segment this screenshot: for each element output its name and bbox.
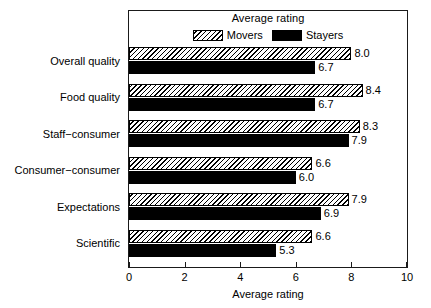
bar-value-label: 8.3 [363,120,378,133]
bar-value-label: 7.9 [352,134,367,147]
bar-chart: Average rating Movers Stayers Overall qu… [0,0,431,308]
bar-movers-4 [129,193,349,206]
bar-value-label: 6.6 [315,157,330,170]
category-axis-labels: Overall quality Food quality Staff−consu… [0,10,124,268]
x-axis-tick-label: 6 [293,271,299,283]
category-label: Overall quality [50,55,120,67]
category-label: Food quality [60,91,120,103]
bar-movers-0 [129,47,351,60]
bars-layer: 8.06.78.46.78.37.96.66.07.96.96.65.3 [129,11,407,267]
bar-movers-1 [129,84,363,97]
bar-value-label: 6.6 [315,230,330,243]
bar-movers-5 [129,230,312,243]
bar-movers-2 [129,120,360,133]
bar-value-label: 8.4 [366,84,381,97]
category-label: Scientific [76,237,120,249]
bar-stayers-1 [129,98,315,111]
bar-movers-3 [129,157,312,170]
category-label: Expectations [57,201,120,213]
category-label: Staff−consumer [43,128,120,140]
x-axis-tick-label: 4 [237,271,243,283]
bar-value-label: 5.3 [279,244,294,257]
x-axis-tick-label: 8 [348,271,354,283]
bar-stayers-3 [129,171,296,184]
x-axis-tick-label: 10 [401,271,413,283]
x-axis-title: Average rating [128,288,408,300]
bar-stayers-5 [129,244,276,257]
bar-stayers-2 [129,134,349,147]
bar-value-label: 7.9 [352,193,367,206]
x-axis-tick-label: 0 [126,271,132,283]
x-axis-tick-label: 2 [182,271,188,283]
x-axis-tick-labels: 0246810 [128,271,408,285]
bar-value-label: 6.9 [324,207,339,220]
bar-value-label: 6.7 [318,98,333,111]
bar-value-label: 6.0 [299,171,314,184]
bar-stayers-0 [129,61,315,74]
bar-value-label: 8.0 [354,47,369,60]
bar-stayers-4 [129,207,321,220]
category-label: Consumer−consumer [15,164,120,176]
bar-value-label: 6.7 [318,61,333,74]
